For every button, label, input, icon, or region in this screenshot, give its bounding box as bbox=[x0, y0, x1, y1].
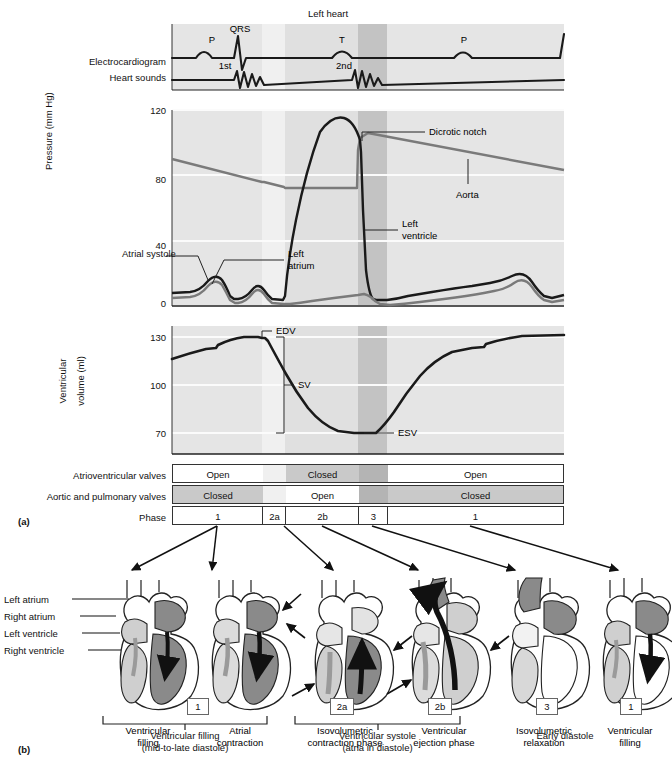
valve-status-table: Atrioventricular valves Open Closed Open… bbox=[0, 464, 672, 526]
volume-axis-label-line1: Ventricular bbox=[57, 359, 68, 404]
phase-box-3: 3 bbox=[536, 698, 558, 715]
volume-plot: EDV SV ESV bbox=[172, 326, 564, 458]
annotation-left-atrium-2: atrium bbox=[288, 260, 314, 271]
volume-tick-70: 70 bbox=[120, 428, 166, 439]
heart-figure-4 bbox=[387, 578, 509, 710]
volume-axis-label-line2: volume (ml) bbox=[75, 356, 86, 406]
annotation-esv: ESV bbox=[398, 427, 418, 438]
ap-seg-1-text: Closed bbox=[173, 490, 263, 501]
pressure-tick-120: 120 bbox=[120, 105, 166, 116]
av-seg-4[interactable] bbox=[359, 465, 388, 482]
ap-seg-2[interactable] bbox=[263, 486, 286, 503]
ecg-plot: P QRS T P 1st 2nd bbox=[172, 24, 564, 94]
ap-seg-3-text: Open bbox=[286, 490, 359, 501]
phase-box-2a: 2a bbox=[330, 698, 354, 715]
phase-box-1: 1 bbox=[187, 698, 209, 715]
aortic-valves-label: Aortic and pulmonary valves bbox=[0, 491, 166, 502]
ecg-label-t: T bbox=[339, 34, 345, 45]
volume-tick-100: 100 bbox=[120, 380, 166, 391]
annotation-sv: SV bbox=[298, 379, 311, 390]
annotation-left-ventricle-1: Left bbox=[402, 218, 418, 229]
heart-figure-2 bbox=[212, 580, 305, 710]
annotation-edv: EDV bbox=[276, 325, 296, 336]
bracket-caption-2-line2: (atria in diastole) bbox=[295, 742, 460, 753]
bracket-caption-2-line1: Ventricular systole bbox=[295, 730, 460, 741]
phase-bar: 1 2a 2b 3 1 bbox=[172, 506, 564, 525]
heart-figure-5 bbox=[511, 578, 589, 710]
heart-sound-label-1st: 1st bbox=[219, 60, 232, 71]
pressure-axis-label-text: Pressure (mm Hg) bbox=[43, 92, 54, 170]
ecg-row-label: Electrocardiogram bbox=[0, 56, 166, 67]
phase-seg-5-text: 1 bbox=[388, 511, 563, 522]
figure-heading: Left heart bbox=[308, 8, 348, 19]
heart-sound-label-2nd: 2nd bbox=[336, 60, 352, 71]
annotation-atrial-systole-1: Atrial systole bbox=[122, 248, 176, 259]
phase-seg-4-text: 3 bbox=[359, 511, 388, 522]
pressure-panel: Pressure (mm Hg) 120 80 40 0 bbox=[0, 100, 672, 310]
bracket-caption-1-line1: Ventricular filling bbox=[103, 730, 267, 741]
bottom-brackets bbox=[0, 716, 672, 730]
ecg-label-p2: P bbox=[461, 34, 467, 45]
bracket-caption-3-line1: Early diastole bbox=[490, 730, 640, 741]
ap-seg-4[interactable] bbox=[359, 486, 388, 503]
phase-box-1-end: 1 bbox=[620, 698, 642, 715]
annotation-dicrotic-notch: Dicrotic notch bbox=[429, 126, 487, 137]
av-seg-3-text: Closed bbox=[286, 469, 359, 480]
annotation-left-atrium-1: Left bbox=[288, 248, 304, 259]
av-seg-1-text: Open bbox=[173, 469, 263, 480]
av-valves-label: Atrioventricular valves bbox=[0, 470, 166, 481]
bracket-caption-1-line2: (mid-to-late diastole) bbox=[103, 742, 267, 753]
part-b-label: (b) bbox=[18, 744, 30, 755]
pressure-plot: Dicrotic notch Aorta Left ventricle Left… bbox=[172, 110, 564, 310]
phase-seg-2-text: 2a bbox=[263, 511, 286, 522]
pressure-tick-80: 80 bbox=[120, 174, 166, 185]
aortic-valves-bar: Closed Open Closed bbox=[172, 485, 564, 504]
annotation-left-ventricle-2: ventricle bbox=[402, 230, 437, 241]
av-seg-5-text: Open bbox=[388, 469, 563, 480]
phase-box-2b: 2b bbox=[428, 698, 452, 715]
pressure-tick-0: 0 bbox=[120, 298, 166, 309]
heart-figure-1 bbox=[120, 580, 198, 710]
heart-sounds-row-label: Heart sounds bbox=[0, 72, 166, 83]
phase-seg-3-text: 2b bbox=[286, 511, 359, 522]
volume-panel: Ventricular volume (ml) 130 100 70 EDV bbox=[0, 318, 672, 458]
ecg-panel: Electrocardiogram Heart sounds P QRS T P… bbox=[0, 24, 672, 94]
av-seg-2[interactable] bbox=[263, 465, 286, 482]
ap-seg-5-text: Closed bbox=[388, 490, 563, 501]
ecg-label-qrs: QRS bbox=[230, 23, 251, 34]
phase-seg-1-text: 1 bbox=[173, 511, 263, 522]
pressure-axis-label: Pressure (mm Hg) bbox=[38, 92, 56, 170]
annotation-aorta: Aorta bbox=[456, 189, 479, 200]
av-valves-bar: Open Closed Open bbox=[172, 464, 564, 483]
heart-figure-6 bbox=[603, 578, 672, 710]
volume-tick-130: 130 bbox=[120, 332, 166, 343]
volume-axis-label: Ventricular volume (ml) bbox=[52, 326, 88, 436]
ecg-label-p1: P bbox=[209, 34, 215, 45]
